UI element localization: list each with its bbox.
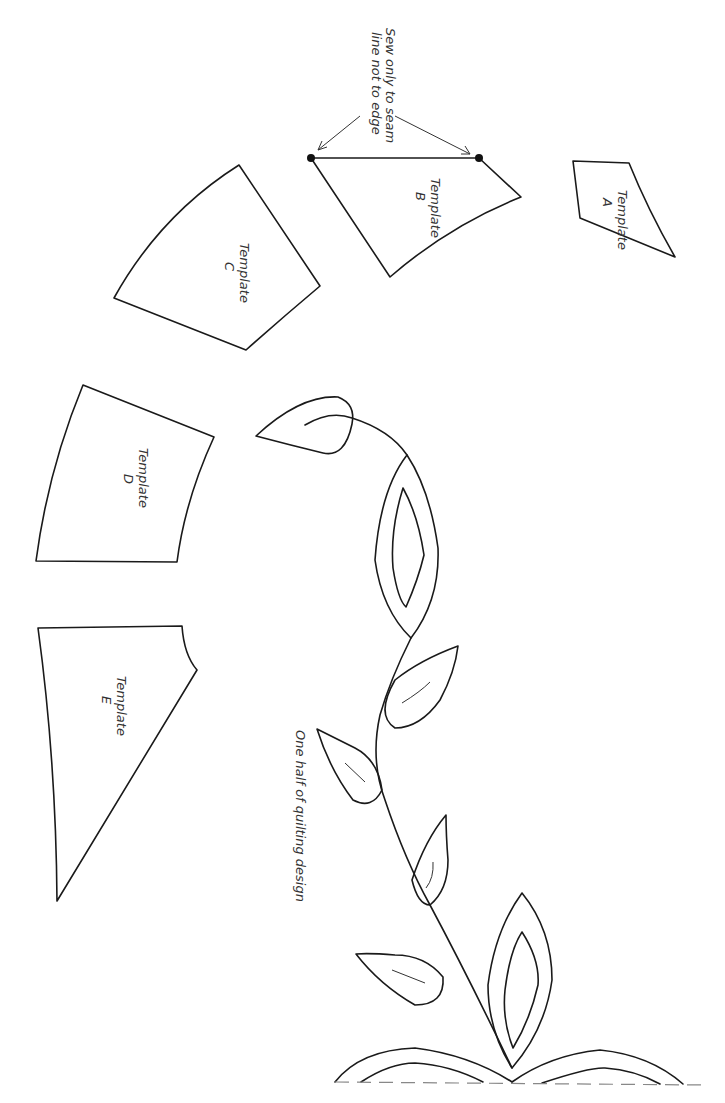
- tall-leaf-inner: [504, 932, 538, 1048]
- template-b-outline: [311, 158, 521, 277]
- base-arch-right-outer: [512, 1050, 683, 1084]
- vine-stem: [376, 638, 512, 1068]
- vine-top: [305, 415, 407, 455]
- template-c-outline: [114, 165, 320, 350]
- seam-dot-right: [475, 154, 483, 162]
- base-arch-left-outer: [335, 1048, 512, 1082]
- leaf-right-2: [412, 815, 448, 905]
- arrow-left: [318, 116, 360, 150]
- leaf-right-1: [385, 646, 458, 728]
- quilting-caption: One half of quilting design: [293, 730, 308, 902]
- leaf-vein-1: [402, 682, 430, 703]
- large-leaf-inner: [392, 488, 424, 607]
- leaf-left-2: [356, 954, 443, 1005]
- template-b-letter: B: [413, 192, 428, 201]
- leaf-vein-4: [392, 970, 425, 983]
- seam-dot-left: [307, 154, 315, 162]
- template-d-label: Template: [136, 448, 151, 508]
- template-b-label: Template: [428, 178, 443, 238]
- quilting-design: One half of quilting design: [256, 397, 705, 1085]
- template-e-label: Template: [114, 676, 129, 736]
- annotation-line1: Sew only to seam: [383, 28, 398, 143]
- large-leaf-outer: [375, 455, 438, 638]
- template-c-label: Template: [237, 243, 252, 303]
- leaf-vein-2: [345, 763, 365, 782]
- template-e-outline: [38, 626, 197, 901]
- seam-annotation: Sew only to seam line not to edge: [318, 28, 470, 154]
- template-e-letter: E: [99, 696, 114, 705]
- template-d-letter: D: [121, 474, 136, 484]
- template-e: Template E: [38, 626, 197, 901]
- template-d: Template D: [36, 385, 214, 562]
- arrow-right: [395, 116, 470, 154]
- annotation-line2: line not to edge: [369, 32, 384, 135]
- template-a: Template A: [573, 161, 675, 257]
- base-arch-right-inner: [542, 1068, 660, 1084]
- template-a-letter: A: [600, 197, 615, 207]
- pattern-sheet: Template A Template B Sew only to seam l…: [0, 0, 725, 1103]
- base-arch-left-inner: [361, 1063, 483, 1082]
- template-c-letter: C: [222, 262, 237, 272]
- leaf-vein-3: [426, 862, 433, 888]
- leaf-left-1: [317, 729, 382, 803]
- template-c: Template C: [114, 165, 320, 350]
- tall-leaf-outer: [488, 893, 552, 1068]
- template-a-label: Template: [615, 190, 630, 250]
- template-b: Template B: [307, 154, 521, 277]
- center-fold-line: [335, 1082, 705, 1085]
